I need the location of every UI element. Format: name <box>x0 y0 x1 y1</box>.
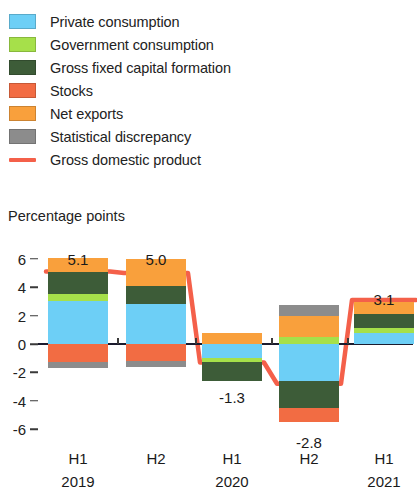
x-axis-tick-mark <box>195 338 197 344</box>
chart-area: Percentage points 6420-2-4-65.15.0-1.3-2… <box>0 200 417 500</box>
x-axis-tick-mark <box>117 338 119 344</box>
legend-line-glyph <box>9 158 36 162</box>
legend-label-gross_fixed_capital_formation: Gross fixed capital formation <box>50 60 231 76</box>
x-axis-tick-mark <box>271 338 273 344</box>
bar-segment-statistical-discrepancy <box>126 361 186 367</box>
bar-segment-private-consumption <box>126 304 186 344</box>
bar-segment-stocks <box>126 344 186 361</box>
legend-line-swatch-gross_domestic_product <box>9 152 36 167</box>
bar-segment-net-exports <box>202 333 262 344</box>
bar-segment-gross-fixed-capital-formation <box>279 381 339 408</box>
plot-region: 6420-2-4-65.15.0-1.3-2.83.1H12019H2H1202… <box>0 200 417 500</box>
x-axis-year-label-2: 2020 <box>215 473 248 490</box>
legend-item-statistical_discrepancy[interactable]: Statistical discrepancy <box>0 125 417 148</box>
legend-item-gross_fixed_capital_formation[interactable]: Gross fixed capital formation <box>0 56 417 79</box>
legend-label-gross_domestic_product: Gross domestic product <box>50 152 201 168</box>
x-axis-year-label-4: 2021 <box>367 473 400 490</box>
bar-segment-government-consumption <box>48 294 108 301</box>
y-axis-tick-label-2: 2 <box>0 307 26 324</box>
y-axis-tick-label-neg4: -4 <box>0 392 26 409</box>
y-axis-tick-label-6: 6 <box>0 250 26 267</box>
legend-label-government_consumption: Government consumption <box>50 37 214 53</box>
bar-segment-gross-fixed-capital-formation <box>126 286 186 304</box>
bar-segment-net-exports <box>279 316 339 337</box>
y-axis-tick-mark <box>30 428 38 430</box>
x-axis-year-label-0: 2019 <box>61 473 94 490</box>
x-axis-tick-mark <box>347 338 349 344</box>
bar-segment-government-consumption <box>279 337 339 344</box>
y-axis-tick-mark <box>30 315 38 317</box>
bar-segment-private-consumption <box>48 301 108 344</box>
bar-segment-gross-fixed-capital-formation <box>48 272 108 294</box>
y-axis-tick-mark <box>30 258 38 260</box>
y-axis-tick-label-0: 0 <box>0 336 26 353</box>
legend-swatch-net_exports <box>9 106 36 121</box>
legend-item-gross_domestic_product[interactable]: Gross domestic product <box>0 148 417 171</box>
bar-segment-government-consumption <box>354 328 414 333</box>
bar-segment-private-consumption <box>202 344 262 358</box>
bar-segment-statistical-discrepancy <box>279 305 339 317</box>
x-axis-category-label-4: H1 <box>374 450 393 467</box>
x-axis-category-label-2: H1 <box>222 450 241 467</box>
bar-segment-gross-fixed-capital-formation <box>354 314 414 328</box>
bar-value-label-4: 3.1 <box>374 291 395 308</box>
bar-segment-stocks <box>279 408 339 422</box>
y-axis-tick-mark <box>30 372 38 374</box>
y-axis-tick-mark <box>30 400 38 402</box>
legend-swatch-stocks <box>9 83 36 98</box>
legend-item-net_exports[interactable]: Net exports <box>0 102 417 125</box>
legend-item-private_consumption[interactable]: Private consumption <box>0 10 417 33</box>
legend-label-stocks: Stocks <box>50 83 93 99</box>
bar-value-label-1: 5.0 <box>146 251 167 268</box>
legend-item-stocks[interactable]: Stocks <box>0 79 417 102</box>
legend-swatch-statistical_discrepancy <box>9 129 36 144</box>
y-axis-tick-label-neg2: -2 <box>0 364 26 381</box>
legend-label-statistical_discrepancy: Statistical discrepancy <box>50 129 191 145</box>
bar-segment-private-consumption <box>279 344 339 381</box>
x-axis-category-label-1: H2 <box>146 450 165 467</box>
bar-value-label-2: -1.3 <box>219 389 245 406</box>
legend-label-private_consumption: Private consumption <box>50 14 179 30</box>
bar-segment-stocks <box>48 344 108 362</box>
y-axis-tick-mark <box>30 286 38 288</box>
y-axis-tick-label-neg6: -6 <box>0 421 26 438</box>
chart-legend: Private consumptionGovernment consumptio… <box>0 0 417 171</box>
y-axis-tick-label-4: 4 <box>0 279 26 296</box>
bar-segment-private-consumption <box>354 333 414 344</box>
legend-swatch-private_consumption <box>9 14 36 29</box>
x-axis-category-label-3: H2 <box>299 450 318 467</box>
bar-value-label-0: 5.1 <box>68 251 89 268</box>
bar-value-label-3: -2.8 <box>296 434 322 451</box>
y-axis-tick-mark <box>30 343 38 345</box>
legend-swatch-gross_fixed_capital_formation <box>9 60 36 75</box>
legend-label-net_exports: Net exports <box>50 106 123 122</box>
legend-item-government_consumption[interactable]: Government consumption <box>0 33 417 56</box>
x-axis-category-label-0: H1 <box>68 450 87 467</box>
bar-segment-statistical-discrepancy <box>48 362 108 368</box>
legend-swatch-government_consumption <box>9 37 36 52</box>
bar-segment-gross-fixed-capital-formation <box>202 362 262 380</box>
